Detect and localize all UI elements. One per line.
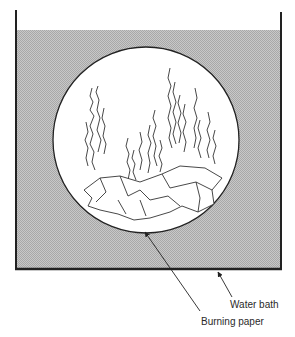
water-bath-label: Water bath xyxy=(230,299,279,310)
water-bath-leader xyxy=(218,272,232,297)
burning-paper-diagram: Water bath Burning paper xyxy=(0,0,295,337)
burning-paper-label: Burning paper xyxy=(201,316,264,327)
